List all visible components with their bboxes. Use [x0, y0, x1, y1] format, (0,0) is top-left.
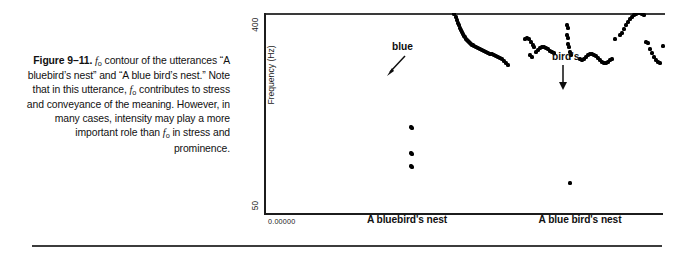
scatter-point — [410, 152, 413, 155]
annotation-label-blue: blue — [392, 41, 413, 52]
scatter-point — [650, 51, 653, 54]
scatter-point — [506, 63, 509, 66]
plot-frame: blue bird's — [264, 13, 665, 215]
scatter-point — [567, 45, 570, 48]
x-axis-label-utterance-1: A bluebird's nest — [322, 214, 492, 225]
scatter-point — [642, 13, 645, 16]
scatter-point — [648, 47, 651, 50]
scatter-point — [613, 37, 616, 40]
figure-number: Figure 9–11. — [33, 55, 92, 66]
scatter-point — [624, 23, 627, 26]
scatter-point — [620, 31, 623, 34]
annotation-label-birds: bird's — [552, 51, 579, 62]
scatter-point — [646, 41, 649, 44]
scatter-point — [410, 165, 413, 168]
y-axis-tick-max: 400 — [251, 14, 260, 36]
y-axis-tick-min: 50 — [251, 195, 260, 217]
scatter-point — [661, 44, 664, 47]
scatter-point-layer — [264, 13, 665, 215]
scatter-point — [658, 61, 661, 64]
figure-caption: Figure 9–11. fo contour of the utterance… — [18, 54, 230, 156]
annotation-arrow-birds — [556, 65, 570, 91]
figure-plot-area: Frequency (Hz) 400 50 blue bird's 0.0000… — [238, 8, 674, 234]
f-zero-symbol-3: fo — [163, 127, 170, 138]
x-axis-origin-label: 0.00000 — [268, 217, 295, 226]
scatter-point — [530, 55, 533, 58]
scatter-point — [532, 45, 535, 48]
scatter-point — [626, 20, 629, 23]
x-axis-label-utterance-2: A blue bird's nest — [492, 214, 668, 225]
scatter-point — [610, 57, 613, 60]
scatter-point — [566, 26, 569, 29]
scatter-point — [566, 36, 569, 39]
scatter-point — [622, 27, 625, 30]
scatter-point — [410, 126, 413, 129]
page-divider-rule — [32, 245, 662, 247]
f-zero-symbol-1: fo — [95, 55, 102, 66]
scatter-point — [568, 181, 571, 184]
annotation-arrow-blue — [384, 55, 408, 77]
caption-text-3: in stress and prominence. — [170, 127, 230, 153]
